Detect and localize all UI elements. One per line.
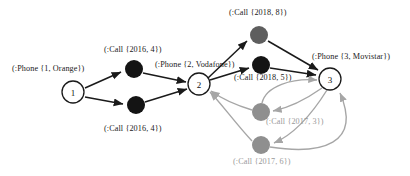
edge-group-gray	[210, 80, 346, 150]
caption-call-2018-5: (:Call {2018, 5})	[234, 73, 292, 82]
caption-phone-3: (:Phone {3, Movistar})	[312, 52, 390, 61]
edge-call2018-8-to-phone3	[268, 41, 318, 70]
call-node-2016-4-bottom[interactable]	[127, 96, 145, 114]
phone-node-1-label: 1	[71, 88, 76, 98]
phone-node-2-label: 2	[197, 80, 202, 90]
edge-phone1-to-call2016bottom	[85, 97, 123, 104]
call-node-2017-6[interactable]	[252, 136, 270, 154]
call-node-2018-5[interactable]	[252, 56, 270, 74]
caption-phone-2: (:Phone {2, Vodafone})	[155, 60, 235, 69]
graph-svg: 1 2 3	[0, 0, 410, 176]
caption-phone-1: (:Phone {1, Orange})	[12, 64, 84, 73]
edge-call2017-3-to-phone3	[262, 80, 317, 103]
phone-node-3-label: 3	[328, 75, 333, 85]
diagram-canvas: 1 2 3 (:Phone {1, Orange}) (:Call {2016,…	[0, 0, 410, 176]
edge-call2017-6-to-phone2	[210, 92, 252, 141]
call-node-2018-8[interactable]	[250, 26, 268, 44]
edge-call2016bottom-to-phone2	[145, 89, 187, 102]
caption-call-2016-4-top: (:Call {2016, 4})	[104, 45, 162, 54]
caption-call-2017-3: (:Call {2017, 3})	[266, 117, 324, 126]
edge-call2016top-to-phone2	[143, 73, 186, 82]
caption-call-2018-8: (:Call {2018, 8})	[229, 8, 287, 17]
phone-node-group: 1 2 3	[62, 68, 341, 103]
caption-call-2016-4-bottom: (:Call {2016, 4})	[104, 124, 162, 133]
edge-phone1-to-call2016top	[85, 72, 121, 88]
call-node-2016-4-top[interactable]	[125, 60, 143, 78]
caption-call-2017-6: (:Call {2017, 6})	[233, 157, 291, 166]
